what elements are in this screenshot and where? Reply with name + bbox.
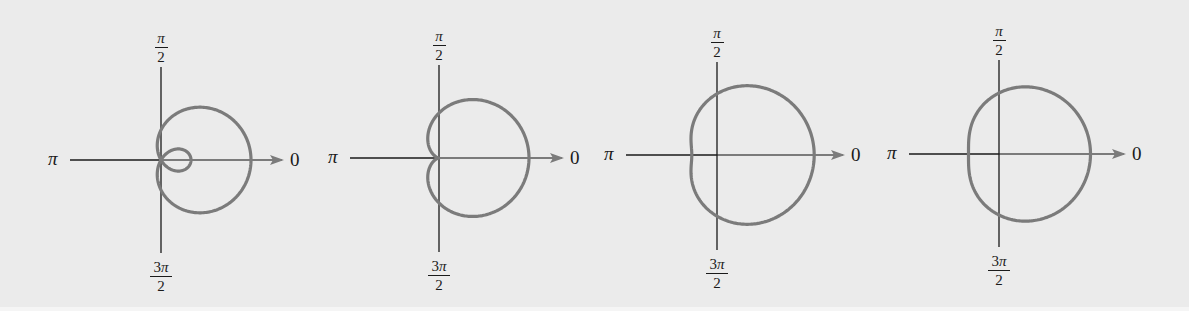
angle-label-half-pi: π 2 [702, 26, 732, 60]
numerator-symbol: π [999, 253, 1007, 269]
denominator: 2 [984, 41, 1014, 58]
polar-graph-2 [350, 65, 562, 252]
polar-graph-3 [626, 62, 843, 250]
denominator: 2 [146, 48, 176, 65]
angle-label-three-half-pi: 3π 2 [984, 254, 1014, 288]
numerator-symbol: π [717, 256, 725, 272]
denominator: 2 [984, 271, 1014, 288]
angle-label-half-pi: π 2 [984, 24, 1014, 58]
angle-label-zero: 0 [1132, 144, 1142, 163]
angle-label-pi: π [604, 144, 614, 163]
angle-label-zero: 0 [570, 148, 580, 167]
angle-label-half-pi: π 2 [146, 31, 176, 65]
angle-label-pi: π [328, 147, 338, 166]
numerator-coeff: 3 [153, 259, 161, 275]
angle-label-three-half-pi: 3π 2 [424, 259, 454, 293]
angle-label-pi: π [48, 149, 58, 168]
denominator: 2 [702, 274, 732, 291]
denominator: 2 [424, 276, 454, 293]
numerator-symbol: π [439, 258, 447, 274]
angle-label-half-pi: π 2 [424, 29, 454, 63]
angle-label-zero: 0 [851, 145, 861, 164]
numerator-coeff: 3 [709, 256, 717, 272]
numerator: π [995, 23, 1003, 39]
numerator: π [713, 25, 721, 41]
denominator: 2 [424, 46, 454, 63]
numerator-coeff: 3 [991, 253, 999, 269]
polar-graph-1 [70, 67, 282, 253]
numerator-symbol: π [161, 259, 169, 275]
polar-graph-4 [909, 60, 1124, 247]
angle-label-zero: 0 [290, 150, 300, 169]
numerator: π [435, 28, 443, 44]
numerator-coeff: 3 [431, 258, 439, 274]
numerator: π [157, 30, 165, 46]
angle-label-three-half-pi: 3π 2 [146, 260, 176, 294]
denominator: 2 [146, 277, 176, 294]
angle-label-pi: π [887, 143, 897, 162]
angle-label-three-half-pi: 3π 2 [702, 257, 732, 291]
denominator: 2 [702, 43, 732, 60]
